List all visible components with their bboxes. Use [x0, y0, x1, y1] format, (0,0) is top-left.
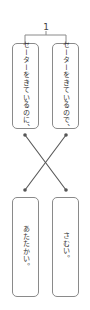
top-card-right-text: セーターをきているので、 [62, 41, 70, 131]
bottom-card-right: さむい。 [52, 197, 79, 297]
top-card-left-text: セーターをきているのに、 [22, 41, 30, 131]
top-card-left: セーターをきているのに、 [12, 43, 39, 129]
dot-bottom-right[interactable] [64, 188, 68, 192]
bottom-card-right-text: さむい。 [62, 232, 70, 262]
question-number: 1 [41, 22, 51, 32]
bottom-card-left: あたたかい。 [12, 197, 39, 297]
connector-left-top-to-right-bottom [25, 135, 66, 190]
connector-right-top-to-left-bottom [25, 135, 66, 190]
bottom-card-left-text: あたたかい。 [22, 225, 30, 270]
dot-bottom-left[interactable] [23, 188, 27, 192]
dot-top-right[interactable] [64, 133, 68, 137]
top-card-right: セーターをきているので、 [52, 43, 79, 129]
dot-top-left[interactable] [23, 133, 27, 137]
